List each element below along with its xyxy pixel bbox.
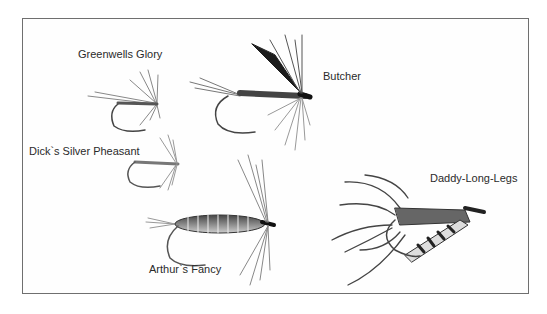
daddy-long-legs-fly-icon [332, 175, 484, 285]
label-greenwells-glory: Greenwells Glory [78, 48, 162, 60]
butcher-fly-icon [190, 35, 310, 150]
label-arthurs-fancy: Arthur`s Fancy [149, 263, 221, 275]
label-dicks-silver-pheasant: Dick`s Silver Pheasant [29, 145, 140, 157]
label-butcher: Butcher [323, 70, 361, 82]
dicks-silver-pheasant-fly-icon [128, 135, 178, 190]
greenwells-glory-fly-icon [88, 70, 160, 131]
label-daddy-long-legs: Daddy-Long-Legs [430, 172, 517, 184]
